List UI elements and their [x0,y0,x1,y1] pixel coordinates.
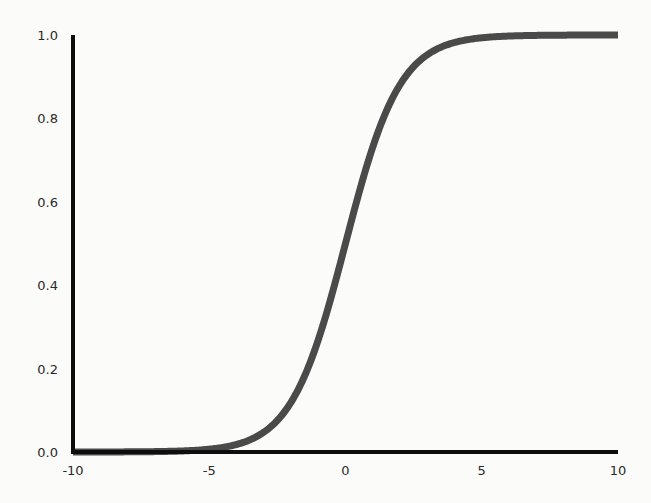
y-axis-tick-labels: 0.00.20.40.60.81.0 [37,28,58,460]
y-tick-label: 0.4 [37,278,58,293]
chart: 0.00.20.40.60.81.0 -10-50510 [0,0,651,503]
x-tick-label: -10 [62,463,83,478]
x-tick-label: 5 [478,463,486,478]
sigmoid-curve [73,35,618,452]
y-tick-label: 0.2 [37,362,58,377]
y-tick-label: 0.8 [37,111,58,126]
y-tick-label: 0.6 [37,195,58,210]
x-tick-label: -5 [203,463,216,478]
sigmoid-chart: 0.00.20.40.60.81.0 -10-50510 [0,0,651,503]
y-tick-label: 1.0 [37,28,58,43]
x-tick-label: 10 [610,463,627,478]
x-tick-label: 0 [341,463,349,478]
x-axis-tick-labels: -10-50510 [62,463,626,478]
y-tick-label: 0.0 [37,445,58,460]
